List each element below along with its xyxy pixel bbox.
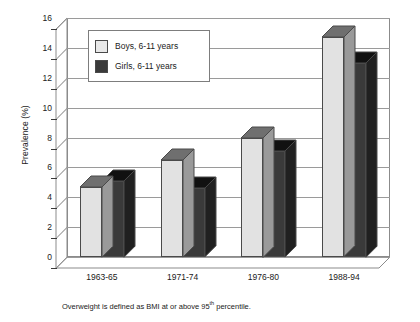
legend-label-boys: Boys, 6-11 years	[115, 42, 178, 51]
chart-footnote: Overweight is defined as BMI at or above…	[62, 300, 251, 311]
y-axis-tick-label: 8	[47, 133, 52, 143]
x-axis-tick-labels: 1963-651971-741976-801988-94	[56, 272, 390, 286]
bar-side-face	[285, 140, 296, 257]
bar-chart: Prevalence (%) 0246810121416 1963-651971…	[0, 0, 420, 322]
bar	[241, 138, 263, 258]
bar	[80, 187, 102, 257]
bar-top-face	[161, 149, 194, 160]
bar	[161, 160, 183, 257]
x-axis-tick-label: 1971-74	[167, 272, 198, 282]
legend-label-girls: Girls, 6-11 years	[115, 62, 177, 71]
y-axis-tickmark	[51, 268, 57, 269]
legend-swatch-boys-icon	[95, 40, 108, 53]
y-axis-tick-label: 0	[47, 252, 52, 262]
x-axis-tick-label: 1976-80	[248, 272, 279, 282]
bar-top-face	[241, 127, 274, 138]
footnote-text-before: Overweight is defined as BMI at or above…	[62, 302, 210, 311]
bar-front-face	[322, 37, 344, 257]
bar-front-face	[241, 138, 263, 258]
legend-swatch-girls-icon	[95, 60, 108, 73]
y-axis-tick-labels: 0246810121416	[30, 14, 52, 264]
legend-entry-girls: Girls, 6-11 years	[95, 56, 203, 76]
x-axis-tick-label: 1963-65	[86, 272, 117, 282]
bar-top-face	[80, 176, 113, 187]
footnote-text-after: percentile.	[214, 302, 251, 311]
bar-top-face	[322, 26, 355, 37]
x-axis-tick-label: 1988-94	[329, 272, 360, 282]
bar-front-face	[80, 187, 102, 257]
y-axis-tick-label: 6	[47, 162, 52, 172]
y-axis-tick-label: 16	[43, 13, 52, 23]
bar-front-face	[161, 160, 183, 257]
chart-legend: Boys, 6-11 years Girls, 6-11 years	[88, 30, 210, 82]
y-axis-tick-label: 10	[43, 103, 52, 113]
bar-side-face	[263, 127, 274, 258]
y-axis-tick-label: 4	[47, 192, 52, 202]
bar-side-face	[102, 176, 113, 257]
legend-entry-boys: Boys, 6-11 years	[95, 36, 203, 56]
bar-side-face	[366, 52, 377, 257]
bar-side-face	[205, 177, 216, 257]
bar-side-face	[344, 26, 355, 257]
y-axis-tick-label: 2	[47, 222, 52, 232]
y-axis-tick-label: 14	[43, 43, 52, 53]
bar-side-face	[124, 170, 135, 257]
bar	[322, 37, 344, 257]
bar-side-face	[183, 149, 194, 257]
y-axis-title: Prevalence (%)	[20, 80, 30, 190]
y-axis-tick-label: 12	[43, 73, 52, 83]
